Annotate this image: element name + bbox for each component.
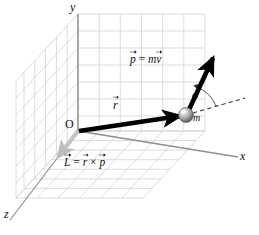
position-vector-symbol: r: [113, 98, 118, 112]
z-axis-label: z: [4, 208, 9, 220]
cross-product-symbol: ×: [87, 156, 99, 168]
vector-arrow-overline-r2: [83, 152, 88, 157]
momentum-mass-symbol: m: [148, 53, 156, 65]
canvas-background: [0, 0, 259, 235]
momentum-equals-sign: =: [136, 53, 148, 65]
velocity-symbol: v: [156, 53, 161, 65]
x-axis-label: x: [240, 150, 245, 162]
momentum-equation: p = mv: [130, 54, 161, 66]
sphere-highlight: [181, 110, 186, 114]
vector-arrow-overline-L: [64, 152, 71, 157]
angular-momentum-r-symbol: r: [83, 156, 87, 168]
position-vector-label: r: [113, 99, 118, 111]
diagram-canvas: [0, 0, 259, 235]
origin-label: O: [65, 118, 74, 130]
y-axis-label: y: [70, 1, 75, 13]
momentum-symbol: p: [130, 53, 136, 65]
angular-momentum-symbol: L: [64, 156, 70, 168]
vector-arrow-overline-p: [130, 49, 137, 54]
angle-label: ϕ: [192, 89, 198, 101]
vector-arrow-overline-v: [156, 49, 162, 54]
angular-momentum-p-symbol: p: [99, 156, 105, 168]
particle-sphere: [179, 108, 194, 123]
angular-momentum-equals-sign: =: [70, 156, 82, 168]
vector-arrow-overline-r: [113, 94, 119, 99]
physics-diagram-figure: y x z O r m ϕ p = mv: [0, 0, 259, 235]
angular-momentum-equation: L = r × p: [64, 157, 105, 169]
mass-label: m: [193, 113, 200, 123]
vector-arrow-overline-p2: [99, 152, 106, 157]
